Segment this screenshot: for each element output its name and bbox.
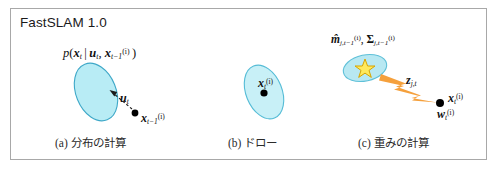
panel-a-caption: (a) 分布の計算 [55,134,126,150]
panel-a-control-u-sub: t [127,97,129,106]
figure-root: FastSLAM 1.0 p(xt | ut, xt−1(i) ) [0,0,498,176]
panel-a-prev-pose-sub: t−1 [147,117,158,126]
panel-c-landmark-mhat: m̂ [331,33,340,45]
panel-c-caption: (c) 重みの計算 [358,134,429,150]
panel-c-pose-label: xt(i) [448,92,463,106]
panel-a-formula-xprev-sub: t−1 [111,52,122,61]
panel-c-measurement-sub: j,t [411,79,417,88]
panel-a-prev-pose-sup: (i) [158,112,165,121]
panel-c-landmark-m-sub: j,t−1 [340,39,354,47]
panel-c-weight-w: w [437,107,445,121]
panel-b-pose-sup: (i) [266,77,273,86]
panel-a-prev-pose-label: xt−1(i) [141,112,165,126]
panel-c-landmark-label: m̂j,t−1(i), Σj,t−1(i) [331,34,395,47]
panel-c-pose-sup: (i) [456,92,463,101]
panel-a-formula-paren-close: ) [130,46,137,60]
panel-b-caption: (b) ドロー [228,134,277,150]
panel-b-pose-label: xt(i) [258,77,273,91]
panel-c-measurement-label: zj,t [406,74,417,88]
panel-c-landmark-sigma: Σ [367,33,375,45]
panel-a-control-u: u [120,91,127,105]
figure-title: FastSLAM 1.0 [20,15,107,30]
panel-a-formula-label: p(xt | ut, xt−1(i) ) [63,47,136,61]
panel-c-weight-label: wt(i) [437,108,454,122]
panel-c-weight-sup: (i) [447,108,454,117]
panel-c-landmark-sigma-sub: j,t−1 [374,39,388,47]
panel-a-formula-xprev-sup: (i) [122,47,129,56]
panel-c-landmark-sigma-sup: (i) [388,34,395,42]
panel-a-control-label: ut [120,92,129,106]
panel-c-landmark-m-sup: (i) [354,34,361,42]
